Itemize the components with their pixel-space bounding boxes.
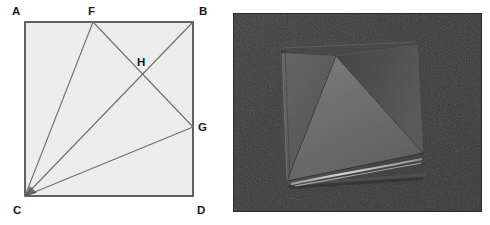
origami-photo-svg	[233, 13, 482, 212]
figure-root: A B C D F G H	[0, 0, 490, 225]
vertex-label-G: G	[198, 121, 207, 133]
geometry-svg: A B C D F G H	[0, 0, 232, 225]
geometry-diagram-panel: A B C D F G H	[0, 0, 232, 225]
vertex-label-C: C	[13, 204, 21, 216]
vertex-label-D: D	[197, 204, 205, 216]
origami-photo-panel	[233, 13, 482, 212]
folded-paper	[282, 45, 425, 185]
vertex-label-F: F	[88, 5, 95, 17]
vertex-label-H: H	[137, 56, 145, 68]
vertex-label-B: B	[199, 5, 207, 17]
vertex-label-A: A	[12, 5, 20, 17]
